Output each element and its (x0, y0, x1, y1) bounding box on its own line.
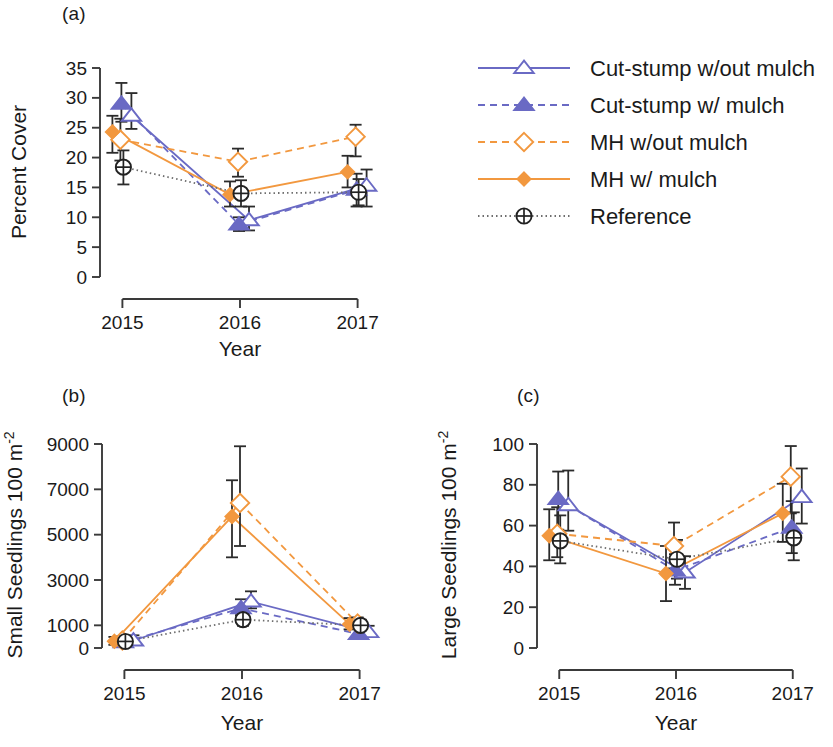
y-tick-label: 5000 (47, 524, 89, 545)
data-marker (776, 507, 789, 520)
y-axis: 05101520253035 (66, 58, 100, 288)
data-marker (514, 61, 534, 73)
x-tick-label: 2016 (221, 683, 263, 704)
panel-c: (c) 020406080100201520162017YearLarge Se… (420, 385, 833, 747)
panel-a-label: (a) (62, 3, 86, 25)
panel-a-plot: 05101520253035201520162017YearPercent Co… (0, 0, 460, 380)
y-axis-title: Percent Cover (7, 105, 30, 239)
x-tick-label: 2017 (338, 683, 380, 704)
y-axis: 020406080100 (492, 434, 537, 659)
data-marker (229, 153, 247, 171)
legend-graphic: Cut-stump w/out mulchCut-stump w/ mulchM… (470, 40, 833, 230)
y-tick-label: 1000 (47, 615, 89, 636)
data-marker (792, 490, 812, 502)
data-marker (122, 108, 141, 120)
legend-label: Cut-stump w/out mulch (590, 56, 815, 81)
y-tick-label: 3000 (47, 570, 89, 591)
y-tick-label: 80 (503, 474, 524, 495)
x-tick-label: 2015 (101, 312, 143, 333)
series-markers (118, 612, 368, 649)
series-line (131, 116, 366, 220)
y-tick-label: 0 (78, 638, 89, 659)
y-tick-label: 0 (76, 267, 87, 288)
y-tick-label: 40 (503, 556, 524, 577)
x-tick-label: 2016 (655, 683, 697, 704)
series-markers (543, 507, 790, 580)
x-tick-label: 2016 (219, 312, 261, 333)
legend-item[interactable]: Cut-stump w/ mulch (478, 93, 784, 118)
y-tick-label: 10 (66, 207, 87, 228)
y-tick-label: 60 (503, 515, 524, 536)
x-tick-label: 2017 (772, 683, 814, 704)
panel-a: (a) 05101520253035201520162017YearPercen… (0, 0, 460, 380)
legend-label: Reference (590, 204, 692, 229)
y-tick-label: 7000 (47, 479, 89, 500)
x-axis-title: Year (219, 337, 261, 360)
x-axis-title: Year (655, 711, 697, 734)
legend-label: MH w/out mulch (590, 130, 748, 155)
panel-c-label: (c) (517, 385, 540, 407)
data-marker (112, 96, 131, 108)
y-tick-label: 20 (503, 597, 524, 618)
data-marker (548, 492, 568, 504)
legend-label: MH w/ mulch (590, 167, 717, 192)
series-errorbars (125, 93, 372, 230)
data-marker (514, 98, 534, 110)
data-marker (341, 165, 354, 178)
legend: Cut-stump w/out mulchCut-stump w/ mulchM… (470, 40, 833, 230)
data-marker (346, 127, 364, 145)
series-markers (548, 467, 800, 555)
legend-item[interactable]: Cut-stump w/out mulch (478, 56, 815, 81)
legend-item[interactable]: MH w/out mulch (478, 130, 748, 155)
x-axis: 201520162017Year (103, 670, 380, 734)
y-tick-label: 100 (492, 434, 524, 455)
panel-c-plot: 020406080100201520162017YearLarge Seedli… (420, 385, 833, 747)
y-axis-title: Small Seedlings 100 m-2 (1, 431, 26, 658)
data-marker (517, 172, 530, 185)
legend-item[interactable]: Reference (478, 204, 692, 229)
legend-label: Cut-stump w/ mulch (590, 93, 784, 118)
data-marker (515, 133, 533, 151)
y-tick-label: 15 (66, 177, 87, 198)
y-tick-label: 5 (76, 237, 87, 258)
y-tick-label: 0 (513, 638, 524, 659)
panel-b: (b) 010003000500070009000201520162017Yea… (0, 385, 420, 747)
legend-item[interactable]: MH w/ mulch (478, 167, 717, 192)
x-axis: 201520162017Year (101, 299, 378, 360)
x-tick-label: 2015 (538, 683, 580, 704)
y-tick-label: 30 (66, 87, 87, 108)
y-tick-label: 20 (66, 147, 87, 168)
y-tick-label: 25 (66, 117, 87, 138)
panel-b-plot: 010003000500070009000201520162017YearSma… (0, 385, 420, 747)
x-axis-title: Year (221, 711, 263, 734)
x-axis: 201520162017Year (538, 670, 814, 734)
y-axis: 010003000500070009000 (47, 434, 102, 659)
y-tick-label: 9000 (47, 434, 89, 455)
x-tick-label: 2015 (103, 683, 145, 704)
panel-b-label: (b) (62, 385, 86, 407)
x-tick-label: 2017 (336, 312, 378, 333)
y-axis-title: Large Seedlings 100 m-2 (435, 431, 460, 660)
y-tick-label: 35 (66, 58, 87, 79)
